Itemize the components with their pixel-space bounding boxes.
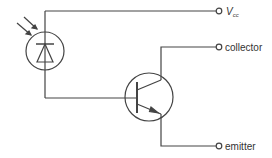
emitter-terminal[interactable] xyxy=(216,143,222,149)
collector-label: collector xyxy=(225,42,263,53)
light-arrows-icon xyxy=(17,17,37,35)
vcc-label: Vcc xyxy=(226,6,239,18)
emitter-label: emitter xyxy=(225,141,256,152)
collector-wire xyxy=(161,47,216,80)
emitter-wire xyxy=(161,114,216,146)
circuit-diagram: Vcc collector emitter xyxy=(0,0,272,158)
vcc-terminal[interactable] xyxy=(216,8,222,14)
collector-terminal[interactable] xyxy=(216,44,222,50)
npn-transistor-icon xyxy=(125,73,173,121)
